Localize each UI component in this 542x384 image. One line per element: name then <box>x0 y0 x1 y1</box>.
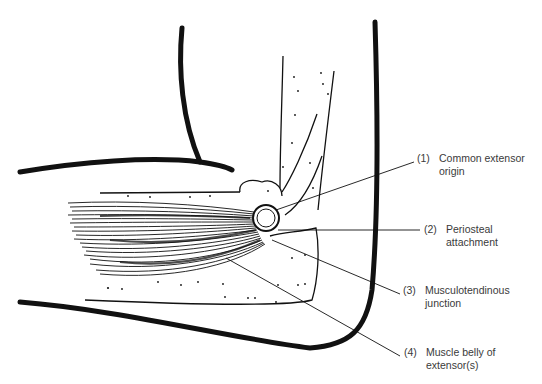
label-periosteal-attachment: (2) Periosteal attachment <box>424 223 498 249</box>
label-text-line2: junction <box>425 297 510 310</box>
upper-arm-outline <box>20 22 377 348</box>
label-text-line2: origin <box>439 165 525 178</box>
leader-line-1 <box>276 162 414 210</box>
elbow-diagram <box>0 0 542 384</box>
common-extensor-origin <box>253 205 279 231</box>
humerus-bone <box>280 56 334 215</box>
label-number: (3) <box>403 284 425 310</box>
label-text-line1: Common extensor <box>439 152 525 165</box>
bone-stipple <box>107 72 329 303</box>
label-muscle-belly: (4) Muscle belly of extensor(s) <box>404 346 495 372</box>
leader-lines <box>226 162 420 356</box>
label-text-line1: Muscle belly of <box>426 346 495 359</box>
label-text-line2: attachment <box>446 236 498 249</box>
leader-line-3 <box>272 240 400 294</box>
label-number: (1) <box>417 152 439 178</box>
extensor-muscle-fibers <box>68 202 265 275</box>
label-text-line1: Periosteal <box>446 223 498 236</box>
label-text-line1: Musculotendinous <box>425 284 510 297</box>
label-number: (4) <box>404 346 426 372</box>
forearm-bone <box>85 180 318 304</box>
label-text-line2: extensor(s) <box>426 359 495 372</box>
label-common-extensor-origin: (1) Common extensor origin <box>417 152 525 178</box>
label-musculotendinous-junction: (3) Musculotendinous junction <box>403 284 510 310</box>
label-number: (2) <box>424 223 446 249</box>
